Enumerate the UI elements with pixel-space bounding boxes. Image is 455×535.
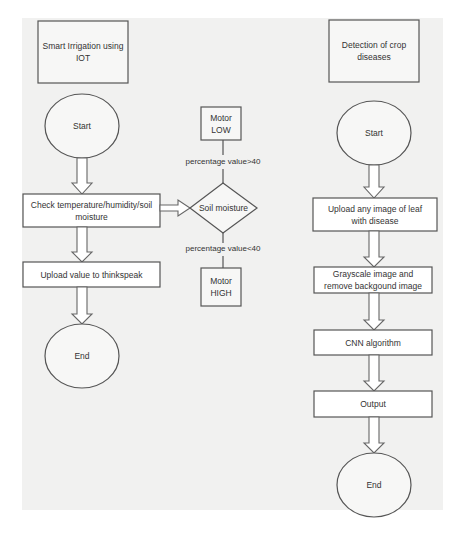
- right-arrow-cnn-to-output-icon: [364, 355, 384, 391]
- high-branch-label: percentage value>40: [173, 157, 273, 166]
- motor-high-label: Motor HIGH: [201, 268, 241, 306]
- right-end-label: End: [337, 453, 411, 517]
- left-start-label: Start: [45, 94, 119, 158]
- left-upload-label: Upload value to thinkspeak: [23, 262, 160, 287]
- low-branch-label: percentage value<40: [173, 244, 273, 253]
- right-arrow-start-to-upload-icon: [364, 165, 384, 198]
- left-title-label: Smart Irrigation using IOT: [38, 21, 128, 83]
- right-output-label: Output: [314, 391, 432, 417]
- right-start-label: Start: [337, 101, 411, 165]
- right-title-line-1: Detection of crop: [342, 39, 406, 51]
- left-title-line-2: IOT: [76, 52, 90, 64]
- left-arrow-check-to-decision-icon: [160, 200, 190, 216]
- motor-high-line-1: Motor: [210, 275, 232, 287]
- left-arrow-check-to-upload-icon: [72, 227, 92, 262]
- motor-low-line-1: Motor: [210, 112, 232, 124]
- right-cnn-label: CNN algorithm: [314, 330, 432, 355]
- right-grayscale-label: Grayscale image and remove backgound ima…: [322, 267, 424, 293]
- left-end-label: End: [45, 324, 119, 388]
- left-arrow-start-to-check-icon: [72, 158, 92, 194]
- motor-low-line-2: LOW: [211, 124, 230, 136]
- right-arrow-upload-to-grayscale-icon: [364, 231, 384, 267]
- motor-low-label: Motor LOW: [201, 107, 241, 140]
- right-title-label: Detection of crop diseases: [329, 20, 419, 82]
- right-arrow-output-to-end-icon: [364, 417, 384, 453]
- left-check-label: Check temperature/humidity/soil moisture: [26, 194, 157, 227]
- right-arrow-grayscale-to-cnn-icon: [364, 293, 384, 330]
- left-title-line-1: Smart Irrigation using: [43, 40, 124, 52]
- right-title-line-2: diseases: [357, 51, 391, 63]
- soil-moisture-label: Soil moisture: [190, 196, 257, 220]
- motor-high-line-2: HIGH: [210, 287, 231, 299]
- right-upload-label: Upload any image of leaf with disease: [325, 198, 425, 231]
- left-arrow-upload-to-end-icon: [72, 287, 92, 324]
